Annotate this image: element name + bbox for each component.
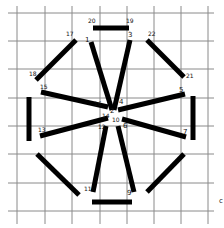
segment-spoke-5 bbox=[118, 94, 185, 110]
endpoint-label: 3 bbox=[128, 31, 132, 39]
segment-puzzle-diagram: 2019171322182115516421410131267119c bbox=[0, 0, 224, 228]
endpoint-label: 14 bbox=[102, 112, 110, 119]
segment-diag-lower-left bbox=[37, 154, 79, 195]
endpoint-label: 15 bbox=[40, 83, 48, 90]
grid bbox=[8, 6, 214, 224]
endpoint-label: 5 bbox=[179, 86, 183, 94]
segment-diag-17-18 bbox=[36, 40, 76, 80]
endpoint-label: 1 bbox=[85, 36, 89, 44]
endpoint-label: 4 bbox=[119, 98, 124, 106]
endpoint-label: 20 bbox=[88, 17, 96, 24]
endpoint-label: 18 bbox=[29, 70, 37, 77]
endpoint-label: 9 bbox=[127, 189, 131, 197]
endpoint-label: 10 bbox=[112, 116, 120, 123]
endpoint-label: 16 bbox=[94, 100, 102, 107]
endpoint-label: 13 bbox=[38, 126, 46, 133]
endpoint-label: 6 bbox=[123, 122, 128, 130]
endpoint-label: 21 bbox=[186, 72, 194, 79]
endpoint-label: 2 bbox=[110, 107, 114, 115]
endpoint-label: 11 bbox=[84, 185, 92, 192]
segment-diag-lower-right bbox=[147, 154, 184, 192]
endpoint-label: c bbox=[219, 197, 223, 205]
segments bbox=[29, 28, 193, 202]
endpoint-label: 22 bbox=[148, 30, 156, 37]
segment-spoke-9 bbox=[118, 126, 134, 192]
segment-diag-22-21 bbox=[147, 40, 184, 77]
endpoint-label: 7 bbox=[183, 128, 187, 136]
endpoint-label: 12 bbox=[98, 123, 106, 130]
endpoint-label: 17 bbox=[66, 30, 74, 37]
endpoint-label: 19 bbox=[126, 17, 134, 24]
